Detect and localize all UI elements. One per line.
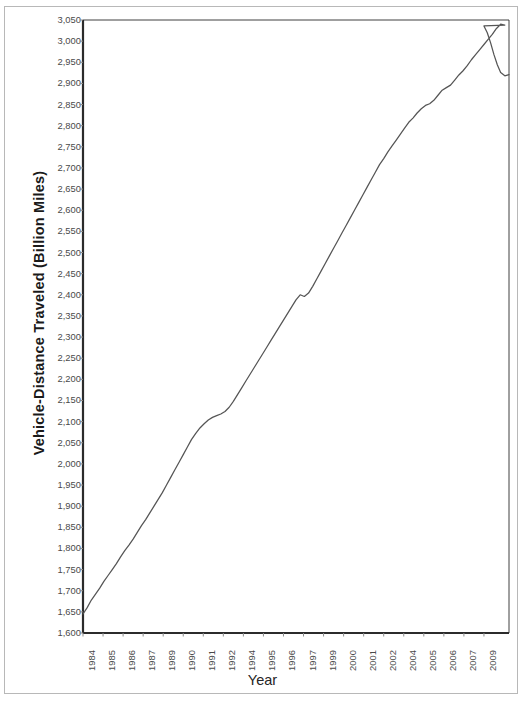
chart-figure: Vehicle-Distance Traveled (Billion Miles… [0,0,525,702]
axes-group [83,20,509,633]
data-series-line [83,24,509,614]
axis-tickmarks [80,20,484,637]
x-axis-title: Year [0,672,525,688]
plot-svg [0,0,525,702]
plot-wrapper: Vehicle-Distance Traveled (Billion Miles… [0,0,525,702]
